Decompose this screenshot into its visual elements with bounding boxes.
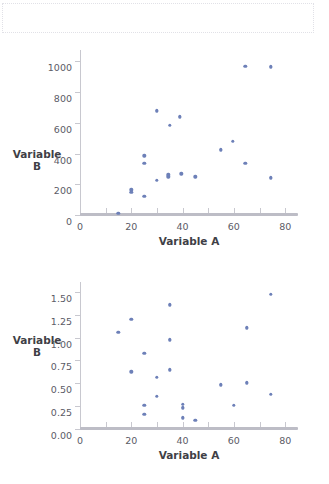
x-axis-line-top	[80, 213, 298, 216]
y-tick	[75, 61, 80, 62]
x-tick-label: 60	[228, 435, 240, 446]
y-tick	[75, 338, 80, 339]
data-point	[269, 65, 272, 68]
y-tick	[75, 123, 80, 124]
scatter-plot-page: VariableB Variable A 0200400600800100002…	[0, 0, 329, 484]
y-tick	[75, 92, 80, 93]
data-point	[181, 416, 184, 419]
data-point	[168, 338, 171, 341]
plot-area-bottom: Variable A 0.000.250.500.751.001.251.500…	[80, 282, 298, 430]
y-axis-line-top	[80, 50, 81, 216]
y-tick	[75, 360, 80, 361]
y-tick	[75, 429, 80, 430]
plot-area-top: Variable A 02004006008001000020406080	[80, 50, 298, 216]
data-point	[155, 179, 158, 182]
x-tick	[106, 208, 107, 213]
data-point	[168, 303, 171, 306]
x-tick	[80, 422, 81, 427]
x-axis-label-bottom: Variable A	[159, 449, 220, 461]
x-tick	[260, 208, 261, 213]
data-point	[142, 154, 145, 157]
x-tick	[131, 422, 132, 427]
x-tick	[285, 422, 286, 427]
x-tick	[157, 208, 158, 213]
data-point	[168, 124, 171, 127]
data-point	[168, 368, 171, 371]
data-point	[219, 148, 222, 151]
x-tick	[260, 422, 261, 427]
x-tick-label: 60	[228, 221, 240, 232]
y-axis-line-bottom	[80, 282, 81, 430]
data-point	[219, 383, 222, 386]
y-tick	[75, 292, 80, 293]
data-point	[269, 176, 272, 179]
data-point	[245, 381, 248, 384]
x-tick	[131, 208, 132, 213]
data-point	[194, 175, 197, 178]
x-tick-label: 20	[125, 435, 137, 446]
x-tick	[183, 208, 184, 213]
x-tick	[234, 422, 235, 427]
x-tick	[234, 208, 235, 213]
data-point	[245, 326, 248, 329]
data-point	[180, 172, 183, 175]
data-point	[130, 318, 133, 321]
data-point	[155, 395, 158, 398]
x-tick	[183, 422, 184, 427]
data-point	[194, 419, 197, 422]
y-tick	[75, 383, 80, 384]
x-tick	[285, 208, 286, 213]
data-point	[142, 413, 145, 416]
x-axis-line-bottom	[80, 427, 298, 430]
x-tick	[208, 422, 209, 427]
x-axis-label-top: Variable A	[159, 235, 220, 247]
y-tick	[75, 184, 80, 185]
data-point	[178, 115, 181, 118]
data-point	[269, 292, 272, 295]
x-tick-label: 0	[77, 435, 83, 446]
y-tick	[75, 406, 80, 407]
x-tick	[208, 208, 209, 213]
x-tick	[80, 208, 81, 213]
x-tick-label: 20	[125, 221, 137, 232]
data-point	[232, 404, 235, 407]
x-tick-label: 40	[177, 435, 189, 446]
data-point	[142, 161, 145, 164]
x-tick-label: 0	[77, 221, 83, 232]
data-point	[269, 393, 272, 396]
data-point	[142, 404, 145, 407]
x-tick	[157, 422, 158, 427]
y-tick	[75, 315, 80, 316]
x-tick-label: 80	[279, 435, 291, 446]
data-point	[117, 331, 120, 334]
scatter-chart-top: VariableB Variable A 0200400600800100002…	[0, 40, 329, 245]
x-tick-label: 80	[279, 221, 291, 232]
data-point	[130, 370, 133, 373]
data-point	[244, 64, 247, 67]
y-tick	[75, 154, 80, 155]
x-tick-label: 40	[177, 221, 189, 232]
empty-dotted-box[interactable]	[2, 3, 314, 33]
data-point	[181, 406, 184, 409]
data-point	[244, 161, 247, 164]
x-tick	[106, 422, 107, 427]
data-point	[231, 139, 234, 142]
data-point	[155, 376, 158, 379]
data-point	[142, 194, 145, 197]
data-point	[155, 109, 158, 112]
data-point	[142, 352, 145, 355]
scatter-chart-bottom: VariableB Variable A 0.000.250.500.751.0…	[0, 272, 329, 477]
y-tick	[75, 215, 80, 216]
